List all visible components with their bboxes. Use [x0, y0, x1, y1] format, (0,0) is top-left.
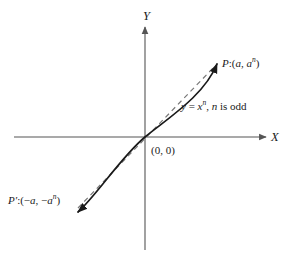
equation-equals-sign: = [186, 100, 198, 112]
point-p-prime-colon: :(− [17, 194, 30, 206]
point-p-label: P:(a, an) [222, 58, 259, 69]
point-p-prime-name: P′ [8, 194, 17, 206]
point-p-prime-separator: , − [36, 194, 48, 206]
x-axis-label: X [271, 131, 279, 144]
origin-label: (0, 0) [151, 145, 175, 156]
figure-y-equals-x-to-the-n: Y X (0, 0) P:(a, an) P′:(−a, −an) y = xn… [0, 0, 292, 259]
plot-canvas [0, 0, 292, 259]
point-p-prime-label: P′:(−a, −an) [8, 195, 60, 206]
point-p-prime-close-paren: ) [57, 194, 61, 206]
equation-condition-text: is odd [217, 100, 246, 112]
curve-y-equals-x-power-n [78, 64, 217, 212]
y-axis-label: Y [143, 10, 150, 23]
curve-equation-label: y = xn, n is odd [181, 101, 247, 112]
point-p-name: P [222, 57, 229, 69]
point-p-close-paren: ) [256, 57, 260, 69]
